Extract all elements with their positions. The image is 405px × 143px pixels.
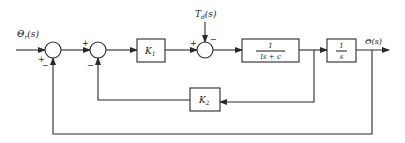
svg-text:Is + c: Is + c — [259, 53, 281, 61]
svg-text:−: − — [87, 61, 94, 70]
svg-text:Θr(s): Θr(s) — [17, 29, 39, 40]
svg-text:Td(s): Td(s) — [195, 9, 217, 20]
svg-text:+: + — [82, 39, 89, 48]
svg-text:s: s — [340, 53, 344, 61]
svg-text:−: − — [42, 61, 49, 70]
output-signal: Θ(s) — [356, 37, 389, 50]
integrator-block: 1 s — [327, 39, 356, 62]
svg-text:Θ(s): Θ(s) — [365, 37, 382, 46]
input-signal: Θr(s) — [16, 29, 45, 50]
svg-text:−: − — [210, 35, 217, 44]
summing-junction-1: + − — [38, 42, 61, 70]
gain-block-k2: K2 — [190, 88, 220, 111]
summing-junction-3: + − — [190, 35, 217, 58]
plant-block: 1 Is + c — [242, 39, 299, 62]
svg-text:+: + — [190, 39, 197, 48]
summing-junction-2: + − — [82, 39, 106, 70]
svg-text:1: 1 — [339, 42, 343, 50]
svg-text:1: 1 — [268, 42, 272, 50]
block-diagram: Θr(s) + − + − K1 Td(s) + − 1 — [0, 0, 405, 143]
gain-block-k1: K1 — [137, 39, 165, 62]
